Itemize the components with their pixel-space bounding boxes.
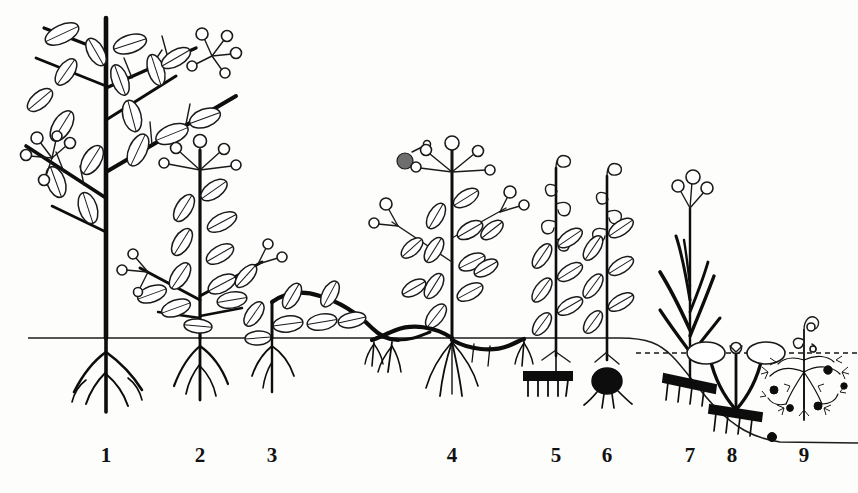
plant-6-bulb	[592, 368, 622, 394]
label-6: 6	[602, 443, 613, 467]
label-7: 7	[685, 443, 696, 467]
label-9: 9	[799, 443, 810, 467]
label-5: 5	[551, 443, 562, 467]
plant-8-flower	[730, 343, 742, 354]
plant-9-turion-bud	[770, 386, 778, 394]
plant-9-resting-turion	[768, 433, 777, 442]
plant-9-turion-bud	[824, 366, 832, 374]
label-8: 8	[727, 443, 738, 467]
plant-5-rhizome	[524, 372, 572, 380]
plant-8-floating-leaf	[687, 342, 725, 364]
plant-9-turion-bud	[841, 383, 847, 389]
label-4: 4	[447, 443, 458, 467]
plant-8-floating-leaf	[747, 342, 785, 364]
plant-9-turion-bud	[787, 405, 794, 412]
plant-9-turion-bud	[814, 402, 822, 410]
label-2: 2	[195, 443, 206, 467]
figure-root: 1 2 3 4 5 6 7 8 9	[0, 0, 858, 493]
life-form-diagram: 1 2 3 4 5 6 7 8 9	[0, 0, 858, 493]
label-1: 1	[101, 443, 112, 467]
label-3: 3	[267, 443, 278, 467]
